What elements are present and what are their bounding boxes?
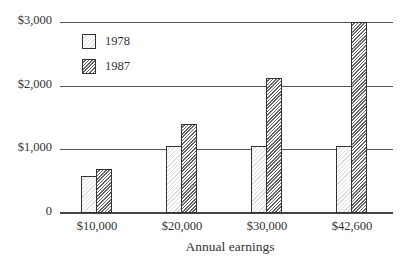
bar-1987-0: [96, 169, 112, 213]
bar-1978-1: [166, 146, 182, 213]
gridline: [60, 86, 393, 87]
x-tick-label: $20,000: [147, 219, 217, 234]
legend-label-1978: 1978: [105, 34, 130, 49]
bar-1978-2: [251, 146, 267, 213]
y-tick-label: $2,000: [0, 77, 52, 92]
y-tick-label: 0: [0, 204, 52, 219]
bar-1978-3: [336, 146, 352, 213]
x-tick-label: $30,000: [232, 219, 302, 234]
bar-1978-0: [81, 176, 97, 213]
bar-1987-1: [181, 124, 197, 213]
bar-1987-3: [351, 22, 367, 213]
y-tick-label: $1,000: [0, 140, 52, 155]
legend-swatch-1987: [82, 59, 96, 74]
bar-chart: 0$1,000$2,000$3,000 $10,000$20,000$30,00…: [0, 0, 407, 267]
legend-label-1987: 1987: [105, 59, 130, 74]
gridline: [60, 22, 393, 23]
bar-1987-2: [266, 78, 282, 213]
y-tick-label: $3,000: [0, 13, 52, 28]
legend-swatch-1978: [82, 34, 96, 49]
x-tick-label: $10,000: [62, 219, 132, 234]
x-axis-title: Annual earnings: [150, 239, 310, 255]
x-tick-label: $42,600: [317, 219, 387, 234]
